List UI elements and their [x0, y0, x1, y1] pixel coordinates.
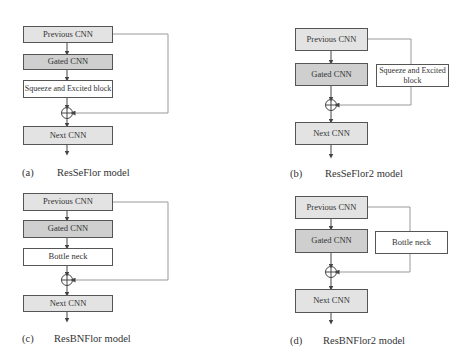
panel-label: (a) [22, 167, 34, 178]
panel-caption: ResSeFlor model [57, 167, 130, 178]
previous-cnn-block: Previous CNN [295, 28, 368, 51]
previous-cnn-block: Previous CNN [23, 26, 113, 43]
bottle-neck-block: Bottle neck [375, 231, 448, 254]
next-cnn-block: Next CNN [295, 122, 368, 145]
squeeze-excited-block: Squeeze and Excited block [376, 64, 449, 87]
panel-caption: ResSeFlor2 model [325, 168, 403, 179]
panel-label: (d) [290, 335, 302, 346]
squeeze-excited-block: Squeeze and Excited block [23, 80, 113, 98]
panel-label: (b) [290, 168, 302, 179]
panel-label: (c) [22, 333, 34, 344]
gated-cnn-block: Gated CNN [23, 54, 113, 70]
gated-cnn-block: Gated CNN [295, 63, 368, 86]
next-cnn-block: Next CNN [295, 289, 368, 313]
next-cnn-block: Next CNN [23, 126, 113, 145]
previous-cnn-block: Previous CNN [295, 196, 368, 219]
previous-cnn-block: Previous CNN [23, 193, 113, 211]
gated-cnn-block: Gated CNN [295, 229, 368, 253]
panel-caption: ResBNFlor model [54, 333, 131, 344]
gated-cnn-block: Gated CNN [23, 220, 113, 238]
next-cnn-block: Next CNN [23, 295, 113, 312]
panel-caption: ResBNFlor2 model [323, 335, 405, 346]
bottle-neck-block: Bottle neck [23, 248, 113, 266]
